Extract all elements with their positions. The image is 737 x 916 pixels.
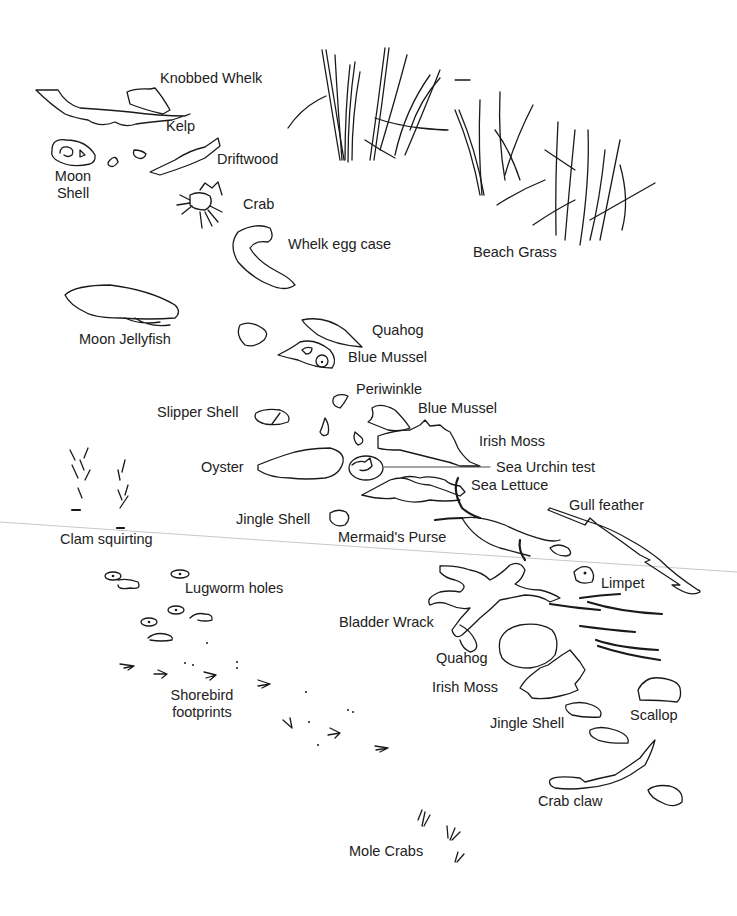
limpet-drawing <box>574 567 594 583</box>
mole-crabs-drawing <box>418 810 464 862</box>
jingle-shell-drawing-bottom <box>590 728 629 744</box>
label-moon-shell: Moon Shell <box>53 168 93 202</box>
label-oyster: Oyster <box>201 459 244 476</box>
label-crab: Crab <box>243 196 274 213</box>
sea-urchin-test-drawing <box>349 456 383 480</box>
label-irish-moss-bottom: Irish Moss <box>432 679 498 696</box>
quahog-drawing-bottom <box>499 624 557 668</box>
label-crab-claw: Crab claw <box>538 793 602 810</box>
line-drawings <box>0 0 737 916</box>
small-shell-drawing <box>550 545 571 556</box>
jingle-shell-drawing-mid <box>330 510 349 526</box>
oyster-shell-drawing-small <box>238 323 266 346</box>
label-blue-mussel-top: Blue Mussel <box>348 349 427 366</box>
small-shell-drawing <box>108 157 118 166</box>
moon-jellyfish-drawing <box>65 285 179 326</box>
beach-grass-drawing-right <box>455 92 655 245</box>
label-shorebird-footprints: Shorebird footprints <box>164 687 240 721</box>
label-jingle-shell-bottom: Jingle Shell <box>490 715 564 732</box>
quahog-drawing-top <box>302 319 362 347</box>
scallop-drawing <box>638 678 681 702</box>
slipper-shell-drawing <box>255 409 289 424</box>
crab-drawing <box>177 182 222 228</box>
small-shell-drawing <box>354 432 363 445</box>
label-mole-crabs: Mole Crabs <box>349 843 423 860</box>
clam-squirting-drawing <box>70 448 128 528</box>
label-lugworm-holes: Lugworm holes <box>185 580 283 597</box>
label-mermaids-purse: Mermaid's Purse <box>338 529 446 546</box>
small-shell-drawing <box>648 786 682 806</box>
label-scallop: Scallop <box>630 707 678 724</box>
label-kelp: Kelp <box>166 118 195 135</box>
small-shell-drawing <box>320 418 329 436</box>
whelk-egg-case-drawing <box>233 226 295 289</box>
moon-shell-drawing <box>52 140 95 166</box>
shorebird-footprints-drawing <box>120 642 388 752</box>
label-periwinkle: Periwinkle <box>356 381 422 398</box>
label-gull-feather: Gull feather <box>569 497 644 514</box>
sea-lettuce-drawing <box>362 495 460 502</box>
small-shell-drawing <box>134 150 147 159</box>
label-whelk-egg-case: Whelk egg case <box>288 236 391 253</box>
sea-lettuce-drawing <box>362 477 465 497</box>
label-blue-mussel-mid: Blue Mussel <box>418 400 497 417</box>
label-moon-jellyfish: Moon Jellyfish <box>79 331 171 348</box>
label-driftwood: Driftwood <box>217 151 278 168</box>
label-sea-lettuce: Sea Lettuce <box>471 477 548 494</box>
blue-mussel-drawing-mid <box>368 405 410 430</box>
label-quahog-top: Quahog <box>372 322 424 339</box>
label-text: Knobbed Whelk <box>160 70 262 86</box>
blue-mussel-drawing-top <box>278 341 335 368</box>
label-beach-grass: Beach Grass <box>473 244 557 261</box>
label-jingle-shell-mid: Jingle Shell <box>236 511 310 528</box>
mermaids-purse-drawing <box>435 517 560 560</box>
label-sea-urchin-test: Sea Urchin test <box>496 459 595 476</box>
beach-finds-illustration: Knobbed Whelk Kelp Moon Shell Driftwood … <box>0 0 737 916</box>
label-knobbed-whelk: Knobbed Whelk <box>160 70 262 87</box>
crab-claw-drawing <box>550 740 655 789</box>
knobbed-whelk-drawing <box>127 88 170 114</box>
irish-moss-drawing-mid <box>378 420 480 466</box>
label-limpet: Limpet <box>601 575 645 592</box>
label-quahog-bottom: Quahog <box>436 650 488 667</box>
label-irish-moss-mid: Irish Moss <box>479 433 545 450</box>
label-slipper-shell: Slipper Shell <box>157 404 238 421</box>
label-bladder-wrack: Bladder Wrack <box>339 614 434 631</box>
razor-clam-drawings <box>550 594 662 660</box>
oyster-drawing <box>258 448 343 479</box>
label-clam-squirting: Clam squirting <box>60 531 153 548</box>
jingle-shell-drawing-bottom <box>566 703 601 718</box>
periwinkle-drawing <box>333 395 348 408</box>
beach-grass-drawing-left <box>288 48 470 162</box>
driftwood-drawing <box>150 138 220 175</box>
